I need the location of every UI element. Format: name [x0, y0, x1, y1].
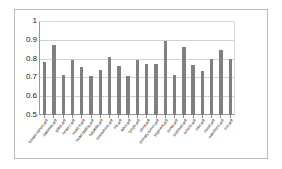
- x-label-slot: zoo.arff: [226, 118, 235, 158]
- bar-slot: [151, 21, 160, 115]
- bar[interactable]: [201, 71, 204, 115]
- y-tick-label: 0.6: [15, 92, 37, 100]
- bar-slot: [207, 21, 216, 115]
- bar[interactable]: [62, 75, 65, 115]
- bar[interactable]: [164, 41, 167, 115]
- bar[interactable]: [89, 76, 92, 115]
- bar[interactable]: [219, 50, 222, 115]
- bar[interactable]: [229, 59, 232, 115]
- bar-slot: [142, 21, 151, 115]
- y-tick-label: 0.7: [15, 73, 37, 81]
- bar-slot: [96, 21, 105, 115]
- y-tick-label: 0.5: [15, 111, 37, 119]
- bar[interactable]: [182, 47, 185, 115]
- y-tick-label: 0.8: [15, 55, 37, 63]
- bar-slot: [216, 21, 225, 115]
- bar-slot: [170, 21, 179, 115]
- bar-slot: [179, 21, 188, 115]
- bar[interactable]: [117, 66, 120, 115]
- bar[interactable]: [52, 45, 55, 115]
- bar-slot: [124, 21, 133, 115]
- y-tick-label: 1: [15, 17, 37, 25]
- bar-slot: [59, 21, 68, 115]
- bar[interactable]: [136, 60, 139, 115]
- bar-slot: [86, 21, 95, 115]
- bar-slot: [226, 21, 235, 115]
- y-axis: 1 0.9 0.8 0.7 0.6 0.5: [15, 21, 37, 115]
- bar[interactable]: [210, 59, 213, 115]
- bar[interactable]: [126, 76, 129, 115]
- bar-slot: [114, 21, 123, 115]
- x-axis-labels: breast-cancer.arffdiabetes.arffglass.arf…: [40, 118, 235, 158]
- bar-slot: [68, 21, 77, 115]
- bar-slot: [105, 21, 114, 115]
- bar-slot: [161, 21, 170, 115]
- bar[interactable]: [80, 67, 83, 115]
- bar[interactable]: [99, 70, 102, 115]
- bar[interactable]: [145, 64, 148, 115]
- bar-slot: [189, 21, 198, 115]
- bar[interactable]: [108, 57, 111, 115]
- bar-chart: 1 0.9 0.8 0.7 0.6 0.5 breast-cancer.arff…: [15, 10, 269, 160]
- figure-frame: 1 0.9 0.8 0.7 0.6 0.5 breast-cancer.arff…: [14, 9, 268, 159]
- bar[interactable]: [71, 60, 74, 115]
- bar[interactable]: [173, 75, 176, 115]
- bar-series: [40, 21, 235, 115]
- bar-slot: [40, 21, 49, 115]
- bar-slot: [133, 21, 142, 115]
- bar-slot: [49, 21, 58, 115]
- bar[interactable]: [191, 65, 194, 115]
- bar-slot: [77, 21, 86, 115]
- bar[interactable]: [43, 62, 46, 115]
- y-tick-label: 0.9: [15, 36, 37, 44]
- bar-slot: [198, 21, 207, 115]
- bar[interactable]: [154, 64, 157, 115]
